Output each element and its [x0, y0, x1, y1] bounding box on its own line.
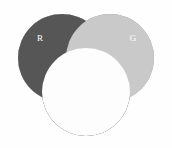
set-label-red: R	[37, 33, 43, 43]
set-label-green: G	[130, 33, 137, 43]
set-label-blue: B	[85, 112, 91, 122]
venn-diagram-figure: R G B	[0, 0, 172, 148]
venn-diagram-canvas: R G B	[0, 0, 172, 148]
